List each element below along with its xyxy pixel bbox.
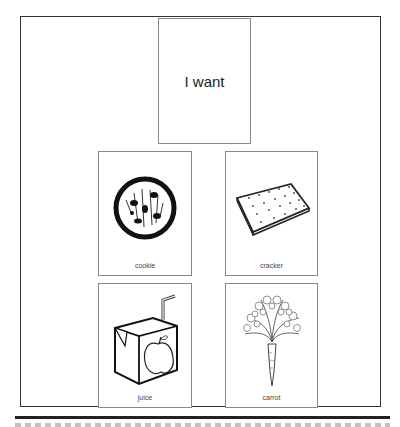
choice-label: cracker [226, 262, 317, 269]
choice-card-cookie[interactable]: cookie [98, 151, 192, 276]
divider-rule [15, 416, 390, 419]
juice-box-icon [99, 290, 191, 389]
choice-card-carrot[interactable]: carrot [225, 283, 318, 408]
choice-label: juice [99, 394, 191, 401]
choice-card-cracker[interactable]: cracker [225, 151, 318, 276]
cookie-icon [99, 158, 191, 257]
choice-card-juice[interactable]: juice [98, 283, 192, 408]
cracker-icon [226, 158, 317, 257]
cropped-caption [15, 423, 390, 427]
choice-label: cookie [99, 262, 191, 269]
i-want-card[interactable]: I want [158, 18, 251, 144]
i-want-label: I want [159, 73, 250, 90]
carrot-icon [226, 290, 317, 389]
choice-label: carrot [226, 394, 317, 401]
